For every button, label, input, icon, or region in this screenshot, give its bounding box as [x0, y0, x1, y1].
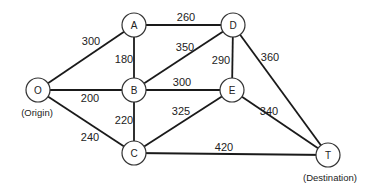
destination-caption: (Destination) — [303, 172, 357, 183]
weights-layer: 300200240260180350300220290360340325420 — [81, 11, 279, 153]
node-label: O — [34, 85, 42, 96]
edge-weight-o-a: 300 — [82, 35, 100, 47]
edge-weight-b-e: 300 — [173, 76, 191, 88]
edge-weight-d-t: 360 — [261, 51, 279, 63]
node-c: C — [122, 141, 146, 165]
edge-weight-a-b: 180 — [115, 53, 133, 65]
edge-weight-e-t: 340 — [260, 105, 278, 117]
edge-c-t — [134, 153, 328, 155]
edge-weight-d-e: 290 — [212, 54, 230, 66]
edge-weight-b-c: 220 — [115, 114, 133, 126]
edge-weight-c-e: 325 — [172, 105, 190, 117]
node-label: T — [325, 150, 331, 161]
node-label: B — [131, 85, 138, 96]
edge-d-t — [233, 25, 328, 155]
node-t: T(Destination) — [303, 143, 357, 183]
node-label: E — [229, 85, 236, 96]
node-label: A — [131, 20, 138, 31]
node-o: O(Origin) — [21, 78, 53, 118]
edge-weight-o-b: 200 — [81, 92, 99, 104]
origin-caption: (Origin) — [21, 107, 53, 118]
node-label: D — [229, 20, 236, 31]
node-label: C — [130, 148, 137, 159]
node-b: B — [122, 78, 146, 102]
node-d: D — [221, 13, 245, 37]
nodes-layer: O(Origin)ABCDET(Destination) — [21, 13, 357, 183]
network-diagram: 300200240260180350300220290360340325420 … — [0, 0, 369, 189]
edge-e-t — [232, 90, 328, 155]
edge-weight-b-d: 350 — [176, 41, 194, 53]
edge-weight-a-d: 260 — [177, 11, 195, 23]
node-a: A — [122, 13, 146, 37]
node-e: E — [220, 78, 244, 102]
edge-weight-o-c: 240 — [81, 131, 99, 143]
edge-weight-c-t: 420 — [215, 141, 233, 153]
